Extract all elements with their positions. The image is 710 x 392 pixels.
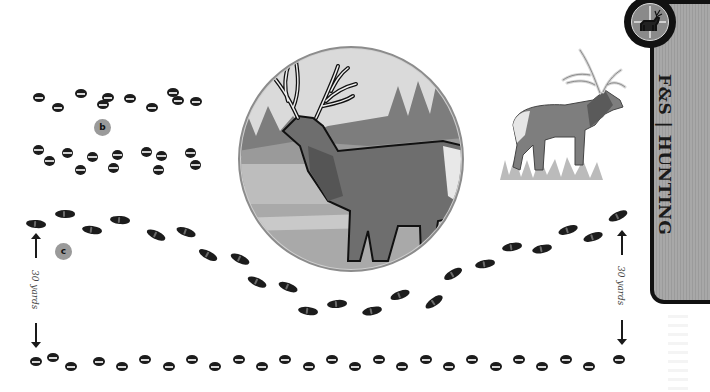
bounding-print <box>209 362 221 371</box>
bounding-print <box>420 355 432 364</box>
bounding-print <box>373 355 385 364</box>
bounding-print <box>536 362 548 371</box>
bounding-print <box>560 355 572 364</box>
standing-elk-illustration <box>495 45 630 185</box>
bounding-print <box>279 355 291 364</box>
bounding-print <box>93 357 105 366</box>
bounding-print <box>490 362 502 371</box>
bounding-print <box>30 357 42 366</box>
bounding-print <box>443 362 455 371</box>
bounding-print <box>139 355 151 364</box>
bounding-print <box>186 355 198 364</box>
bounding-print <box>65 362 77 371</box>
section-tab-label: F&S | HUNTING <box>655 74 675 235</box>
bounding-print <box>583 362 595 371</box>
bounding-print <box>233 355 245 364</box>
elk-landscape-medallion <box>238 46 464 272</box>
bounding-print <box>326 355 338 364</box>
bounding-print <box>466 355 478 364</box>
crosshair-deer-icon <box>631 3 669 41</box>
bounding-print <box>613 355 625 364</box>
bounding-print <box>47 353 59 362</box>
bounding-print <box>116 362 128 371</box>
bounding-print <box>303 362 315 371</box>
bounding-print <box>163 362 175 371</box>
page-bleed-text <box>668 310 688 390</box>
bounding-print <box>349 362 361 371</box>
bounding-print <box>513 355 525 364</box>
bounding-print <box>396 362 408 371</box>
bounding-print <box>256 362 268 371</box>
